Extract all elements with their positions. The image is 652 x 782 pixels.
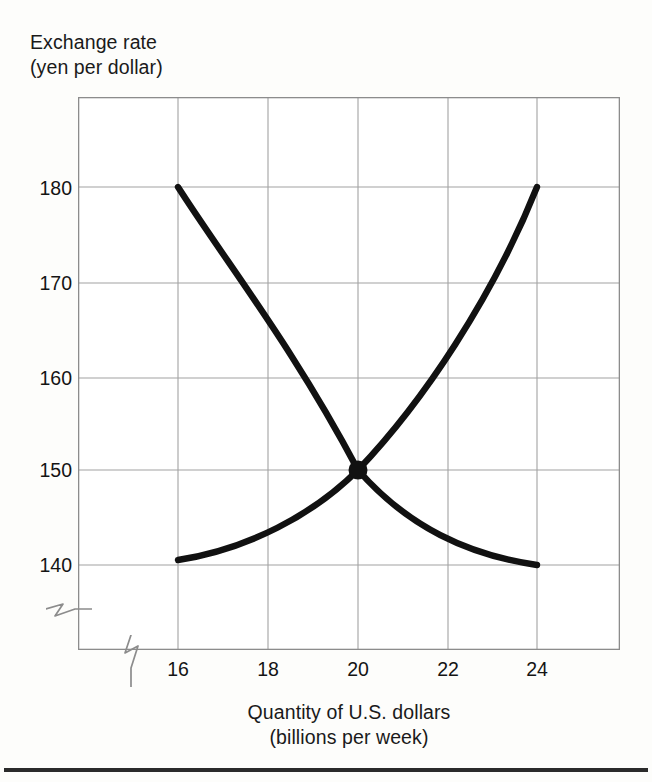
y-tick-150: 150 <box>14 459 72 482</box>
y-axis-tick-labels: 140 150 160 170 180 <box>10 0 72 782</box>
plot-area <box>78 97 620 650</box>
x-axis-title: Quantity of U.S. dollars (billions per w… <box>78 700 620 750</box>
y-tick-160: 160 <box>14 367 72 390</box>
y-axis-break-zigzag-icon <box>46 592 92 632</box>
equilibrium-point-marker <box>349 461 368 480</box>
x-tick-16: 16 <box>148 658 208 681</box>
x-axis-break-zigzag-icon <box>112 635 152 687</box>
x-tick-24: 24 <box>507 658 567 681</box>
x-tick-18: 18 <box>238 658 298 681</box>
figure-bottom-rule <box>4 768 648 772</box>
exchange-rate-supply-demand-figure: Exchange rate (yen per dollar) 140 150 1… <box>0 0 652 782</box>
y-tick-180: 180 <box>14 177 72 200</box>
y-tick-170: 170 <box>14 272 72 295</box>
y-tick-140: 140 <box>14 554 72 577</box>
x-tick-20: 20 <box>328 658 388 681</box>
x-tick-22: 22 <box>418 658 478 681</box>
